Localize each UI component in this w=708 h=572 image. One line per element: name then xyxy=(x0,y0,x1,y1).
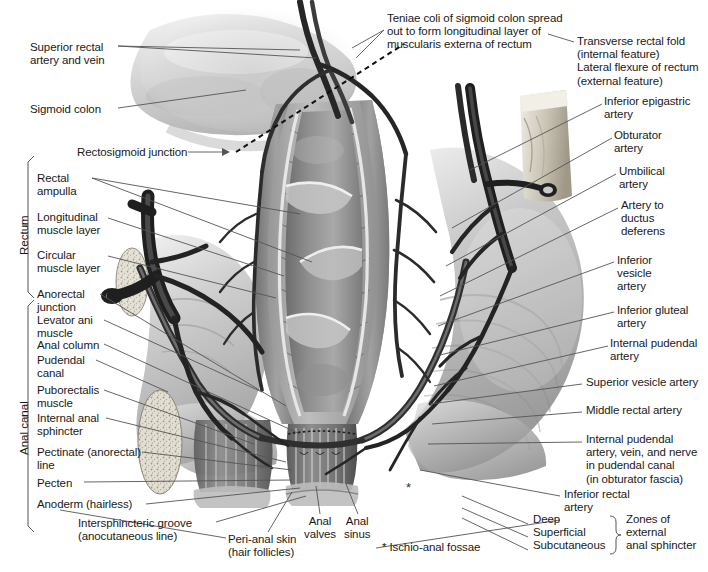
label-middle-rectal-artery: Middle rectal artery xyxy=(586,404,682,417)
label-superior-rectal-artery-and-vein: Superior rectal artery and vein xyxy=(30,41,105,67)
label-zones-of-external-anal-sphincter: Zones of external anal sphincter xyxy=(626,513,696,553)
label-anal-column: Anal column xyxy=(37,339,99,352)
label-inferior-epigastric-artery: Inferior epigastric artery xyxy=(604,95,690,121)
label-anoderm-hairless: Anoderm (hairless) xyxy=(37,498,132,511)
label-anorectal-junction: Anorectal junction xyxy=(37,288,85,314)
label-artery-to-ductus-deferens: Artery to ductus deferens xyxy=(621,199,665,239)
label-anal-sinus: Anal sinus xyxy=(344,515,370,541)
label-umbilical-artery: Umbilical artery xyxy=(619,165,665,191)
label-levator-ani-muscle: Levator ani muscle xyxy=(37,314,93,340)
label-inferior-rectal-artery: Inferior rectal artery xyxy=(564,488,630,514)
label-peri-anal-skin: Peri-anal skin (hair follicles) xyxy=(228,533,296,559)
label-pectinate-anorectal-line: Pectinate (anorectal) line xyxy=(37,446,141,472)
label-transverse-rectal-fold: Transverse rectal fold (internal feature… xyxy=(577,35,699,88)
label-internal-pudendal-artery-vein-nerve: Internal pudendal artery, vein, and nerv… xyxy=(586,433,697,486)
label-puborectalis-muscle: Puborectalis muscle xyxy=(37,384,99,410)
label-pudendal-canal: Pudendal canal xyxy=(37,354,85,380)
label-superior-vesicle-artery: Superior vesicle artery xyxy=(586,376,698,389)
label-zone-subcutaneous: Subcutaneous xyxy=(533,539,605,552)
label-internal-anal-sphincter: Internal anal sphincter xyxy=(37,412,99,438)
anal-canal xyxy=(286,424,359,506)
label-intersphincteric-groove: Intersphincteric groove (anocutaneous li… xyxy=(78,517,192,543)
label-rectal-ampulla: Rectal ampulla xyxy=(37,172,77,198)
label-rectosigmoid-junction: Rectosigmoid junction xyxy=(77,146,187,159)
bracket-label-anal-canal: Anal canal xyxy=(18,401,30,455)
bracket-label-rectum: Rectum xyxy=(18,215,30,255)
label-zone-superficial: Superficial xyxy=(533,526,586,539)
label-internal-pudendal-artery: Internal pudendal artery xyxy=(610,337,697,363)
label-obturator-artery: Obturator artery xyxy=(614,129,662,155)
svg-text:*: * xyxy=(406,480,411,495)
label-sigmoid-colon: Sigmoid colon xyxy=(30,103,101,116)
label-longitudinal-muscle-layer: Longitudinal muscle layer xyxy=(37,211,100,237)
label-circular-muscle-layer: Circular muscle layer xyxy=(37,249,100,275)
label-zone-deep: Deep xyxy=(533,513,560,526)
anatomy-figure: * * xyxy=(0,0,708,572)
label-inferior-gluteal-artery: Inferior gluteal artery xyxy=(617,304,688,330)
label-inferior-vesicle-artery: Inferior vesicle artery xyxy=(617,254,652,294)
label-pecten: Pecten xyxy=(37,477,72,490)
label-teniae-coli: Teniae coli of sigmoid colon spread out … xyxy=(387,12,563,52)
label-anal-valves: Anal valves xyxy=(304,515,336,541)
label-ischio-anal-fossae: * Ischio-anal fossae xyxy=(382,541,480,554)
rectal-lumen xyxy=(285,110,362,412)
